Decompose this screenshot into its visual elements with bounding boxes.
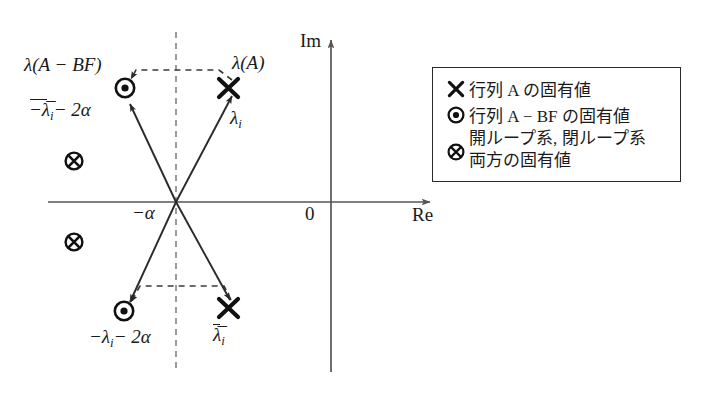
legend: 行列 A の固有値 行列 A − BF の固有値 開ループ系, 閉ループ系 両方…	[432, 67, 681, 182]
closed-loop-group-label: λ(A − BF)	[24, 55, 102, 74]
cross-marker-icon	[443, 79, 469, 99]
imaginary-axis-label: Im	[300, 31, 321, 50]
closed-loop-lower-point-label: −λi− 2α	[89, 327, 151, 350]
legend-label-both-line2: 両方の固有値	[469, 151, 571, 170]
marker-closed-loop-upper	[116, 79, 134, 97]
open-loop-lower-subscript: i	[221, 333, 225, 348]
legend-label-both-line1: 開ループ系, 閉ループ系	[469, 129, 646, 148]
open-loop-upper-base: λ	[230, 107, 238, 128]
upper-reflection-dashed-path	[131, 70, 232, 80]
origin-label: 0	[305, 204, 315, 223]
real-axis-label: Re	[412, 205, 433, 224]
marker-closed-loop-lower	[115, 302, 133, 320]
closed-loop-upper-tail: − 2α	[54, 99, 91, 120]
dot-in-circle-marker-icon	[443, 105, 469, 125]
marker-open-loop-lower	[219, 299, 238, 317]
minus-alpha-label: −α	[132, 203, 155, 222]
legend-item-open-loop: 行列 A の固有値	[443, 76, 591, 101]
legend-item-both: 開ループ系, 閉ループ系 両方の固有値	[443, 128, 646, 172]
closed-loop-upper-base: −λ̅	[29, 100, 50, 119]
cross-in-circle-marker-icon	[443, 142, 469, 162]
eigenvalue-vectors	[130, 96, 232, 302]
figure-canvas: Im Re 0 −α λ(A − BF) λ(A) −λ̅i− 2α λi −λ…	[0, 0, 712, 396]
open-loop-upper-subscript: i	[238, 116, 242, 131]
legend-label-both: 開ループ系, 閉ループ系 両方の固有値	[469, 128, 646, 172]
closed-loop-upper-point-label: −λ̅i− 2α	[29, 100, 91, 123]
marker-both-upper	[66, 153, 83, 170]
legend-item-closed-loop: 行列 A − BF の固有値	[443, 102, 630, 127]
marker-both-lower	[66, 234, 83, 251]
open-loop-lower-point-label: λ̅i	[213, 325, 225, 348]
closed-loop-lower-tail: − 2α	[114, 326, 151, 347]
lower-reflection-dashed-path	[131, 286, 231, 302]
open-loop-upper-point-label: λi	[230, 108, 242, 131]
legend-label-open-loop: 行列 A の固有値	[469, 76, 591, 101]
marker-open-loop-upper	[219, 79, 238, 97]
closed-loop-lower-base: −λ	[89, 326, 110, 347]
legend-label-closed-loop: 行列 A − BF の固有値	[469, 102, 630, 127]
open-loop-group-label: λ(A)	[232, 53, 265, 72]
open-loop-lower-base: λ̅	[213, 325, 221, 344]
